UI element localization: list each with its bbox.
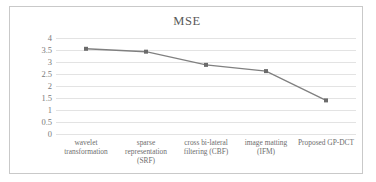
chart-frame: MSE 43.532.521.510.50 wavelettransformat…: [9, 6, 363, 174]
y-axis-tick-label: 4: [20, 34, 52, 42]
x-axis-tick-label-line: (IFM): [236, 147, 296, 156]
y-axis-tick-label: 0.5: [20, 118, 52, 126]
data-point-marker: [264, 69, 268, 73]
y-axis-tick-label: 2: [20, 82, 52, 90]
x-axis-tick-label-line: transformation: [56, 147, 116, 156]
x-axis-tick-label-line: image matting: [236, 138, 296, 147]
data-point-marker: [324, 98, 328, 102]
plot-area: [56, 38, 356, 134]
x-axis-tick-label-line: representation: [116, 147, 176, 156]
x-axis-tick-label: sparserepresentation(SRF): [116, 138, 176, 166]
y-axis-tick-label: 1.5: [20, 94, 52, 102]
x-axis-tick-label: wavelettransformation: [56, 138, 116, 156]
x-axis-tick-label: cross bi-lateralfiltering (CBF): [176, 138, 236, 156]
x-axis-tick-label-line: filtering (CBF): [176, 147, 236, 156]
y-axis-tick-label: 1: [20, 106, 52, 114]
x-axis-tick-label-line: Proposed GP-DCT: [296, 138, 356, 147]
x-axis-tick-label-line: (SRF): [116, 156, 176, 165]
y-axis-tick-label: 0: [20, 130, 52, 138]
gridline: [56, 134, 356, 135]
y-axis-tick-label: 3: [20, 58, 52, 66]
y-axis-tick-label: 2.5: [20, 70, 52, 78]
x-axis-tick-label-line: sparse: [116, 138, 176, 147]
x-axis-tick-label-line: wavelet: [56, 138, 116, 147]
data-point-marker: [144, 50, 148, 54]
x-axis-tick-label: Proposed GP-DCT: [296, 138, 356, 147]
data-point-marker: [84, 47, 88, 51]
series-line: [86, 49, 326, 101]
x-axis: wavelettransformationsparserepresentatio…: [56, 138, 356, 172]
chart-title: MSE: [10, 14, 364, 29]
data-point-marker: [204, 63, 208, 67]
y-axis-tick-label: 3.5: [20, 46, 52, 54]
line-series: [56, 38, 356, 134]
x-axis-tick-label: image matting(IFM): [236, 138, 296, 156]
chart-figure: MSE 43.532.521.510.50 wavelettransformat…: [0, 0, 376, 182]
y-axis: 43.532.521.510.50: [20, 38, 52, 134]
x-axis-tick-label-line: cross bi-lateral: [176, 138, 236, 147]
